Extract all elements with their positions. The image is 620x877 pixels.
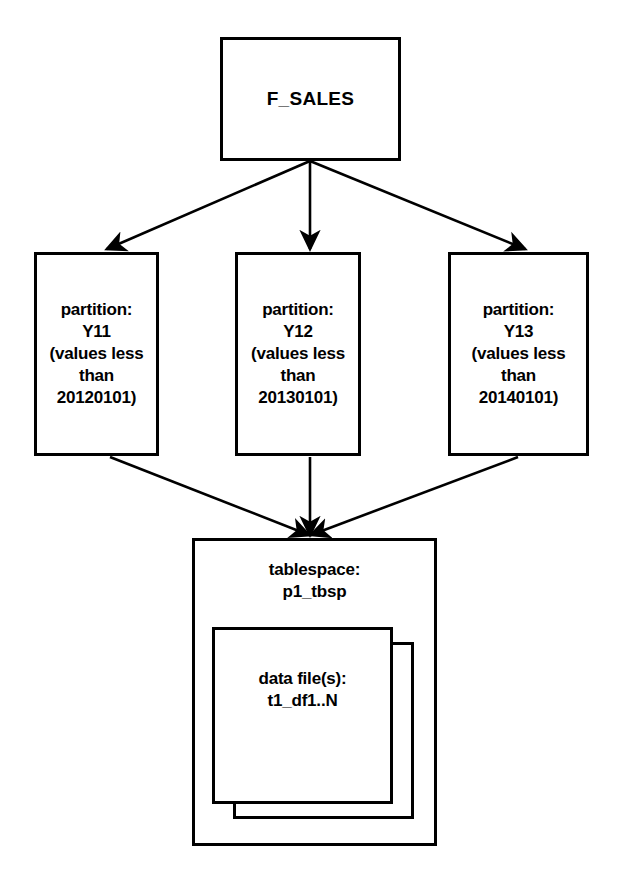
- arrow-partition-2-to-tablespace: [311, 457, 518, 535]
- arrow-root-to-partition-2: [310, 161, 525, 249]
- partition-node-y12[interactable]: partition: Y12 (values less than 2013010…: [235, 252, 361, 456]
- root-table-label: F_SALES: [267, 88, 355, 110]
- partition-label-y12: partition: Y12 (values less than 2013010…: [238, 299, 358, 409]
- partition-label-y11: partition: Y11 (values less than 2012010…: [37, 299, 156, 409]
- partition-label-y13: partition: Y13 (values less than 2014010…: [451, 299, 586, 409]
- datafile-label: data file(s): t1_df1..N: [258, 668, 346, 712]
- diagram-canvas: F_SALES partition: Y11 (values less than…: [0, 0, 620, 877]
- tablespace-label: tablespace: p1_tbsp: [269, 559, 360, 603]
- datafile-stack: data file(s): t1_df1..N: [212, 627, 414, 819]
- partition-node-y11[interactable]: partition: Y11 (values less than 2012010…: [34, 252, 159, 456]
- root-table-node[interactable]: F_SALES: [220, 37, 401, 161]
- datafile-node[interactable]: data file(s): t1_df1..N: [212, 627, 393, 804]
- partition-node-y13[interactable]: partition: Y13 (values less than 2014010…: [448, 252, 589, 456]
- arrow-partition-0-to-tablespace: [110, 457, 309, 535]
- arrow-root-to-partition-0: [107, 161, 310, 249]
